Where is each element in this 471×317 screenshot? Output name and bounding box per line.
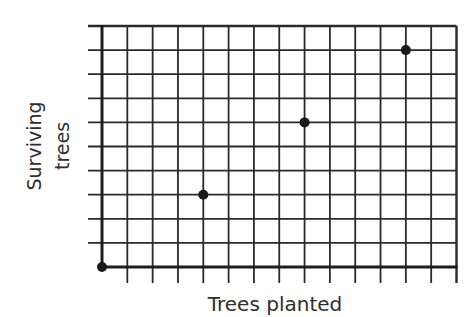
y-axis-label: Surviving trees (20, 101, 76, 190)
data-point (198, 190, 208, 200)
data-point (300, 117, 310, 127)
grid-lines (88, 26, 457, 283)
y-axis-label-line-2: trees (48, 101, 76, 190)
x-axis-label: Trees planted (208, 291, 342, 317)
data-point (401, 45, 411, 55)
data-point (97, 262, 107, 272)
y-axis-label-line-1: Surviving (20, 101, 48, 190)
